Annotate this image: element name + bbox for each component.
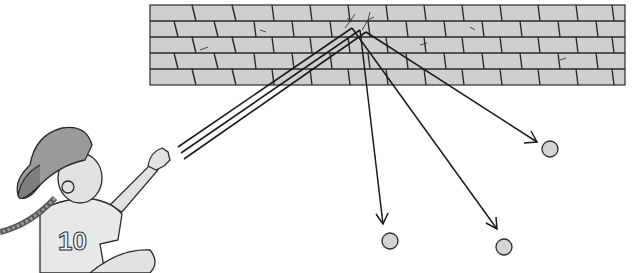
jersey-number: 10 <box>58 226 87 256</box>
hand <box>148 148 170 170</box>
illustration: 10 <box>0 0 633 273</box>
ball-2 <box>496 239 512 255</box>
ball-1 <box>382 233 398 249</box>
ear <box>62 181 74 193</box>
raised-arm <box>110 165 158 212</box>
balls <box>382 141 558 255</box>
ball-3 <box>542 141 558 157</box>
